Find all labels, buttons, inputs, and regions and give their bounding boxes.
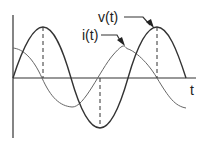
v-label: v(t) (98, 9, 118, 25)
t-axis-label: t (190, 82, 194, 98)
phase-diagram: v(t) i(t) t (0, 0, 206, 148)
i-arrow-head-icon (117, 37, 125, 46)
v-arrow-head-icon (146, 19, 154, 28)
i-arrow-line (101, 35, 121, 42)
i-label: i(t) (82, 27, 98, 43)
v-arrow-line (124, 17, 150, 25)
current-curve (13, 46, 186, 108)
